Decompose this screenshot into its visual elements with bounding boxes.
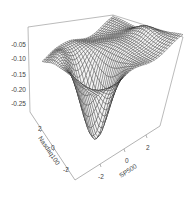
surface-plot: -0.05 -0.10 -0.15 -0.20 -0.25 2 0 -2 Nas… <box>0 0 195 200</box>
y-tick-label: -2 <box>63 166 69 173</box>
x-tick-label: 0 <box>125 157 129 164</box>
x-tick-label: -2 <box>98 173 104 180</box>
z-tick-label: -0.15 <box>11 71 26 78</box>
x-axis: -2 0 2 SP500 <box>98 135 150 180</box>
z-tick-label: -0.05 <box>11 41 26 48</box>
x-axis-title: SP500 <box>118 162 139 179</box>
y-tick-label: 2 <box>38 125 42 132</box>
y-axis-title: Nasdaq100 <box>36 135 61 167</box>
z-tick-label: -0.25 <box>11 100 26 107</box>
z-tick-label: -0.20 <box>11 86 26 93</box>
z-axis: -0.05 -0.10 -0.15 -0.20 -0.25 <box>11 41 26 107</box>
y-axis: 2 0 -2 Nasdaq100 <box>36 125 69 173</box>
z-tick-label: -0.10 <box>11 55 26 62</box>
surface-mesh <box>42 17 183 140</box>
x-tick-label: 2 <box>146 144 150 151</box>
